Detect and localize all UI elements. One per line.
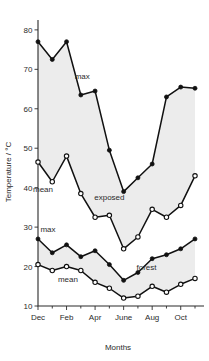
data-point-forest_max bbox=[122, 278, 126, 282]
data-point-forest_mean bbox=[36, 262, 40, 266]
y-tick-label: 10 bbox=[24, 302, 33, 311]
x-tick-label: June bbox=[115, 313, 133, 322]
data-point-exposed_max bbox=[79, 93, 83, 97]
x-tick-labels: DecFebAprJuneAugOct bbox=[31, 313, 188, 322]
data-point-exposed_max bbox=[93, 89, 97, 93]
data-point-exposed_max bbox=[65, 40, 69, 44]
x-axis-label: Months bbox=[105, 343, 131, 352]
data-point-forest_max bbox=[179, 247, 183, 251]
annotation-forest_mean: mean bbox=[58, 275, 78, 284]
data-point-forest_mean bbox=[179, 282, 183, 286]
data-point-forest_mean bbox=[150, 284, 154, 288]
data-point-exposed_max bbox=[50, 57, 54, 61]
data-point-forest_mean bbox=[64, 264, 68, 268]
data-point-exposed_max bbox=[179, 85, 183, 89]
data-point-forest_max bbox=[93, 249, 97, 253]
data-point-exposed_mean bbox=[136, 235, 140, 239]
x-tick-label: Aug bbox=[145, 313, 159, 322]
data-point-forest_mean bbox=[193, 276, 197, 280]
annotation-forest_band: forest bbox=[136, 263, 157, 272]
data-point-exposed_mean bbox=[121, 247, 125, 251]
y-tick-label: 60 bbox=[24, 105, 33, 114]
y-tick-label: 20 bbox=[24, 263, 33, 272]
data-point-forest_mean bbox=[121, 296, 125, 300]
data-point-forest_mean bbox=[164, 290, 168, 294]
data-point-exposed_max bbox=[193, 86, 197, 90]
annotation-exposed_max: max bbox=[75, 72, 90, 81]
data-point-exposed_mean bbox=[36, 160, 40, 164]
data-point-exposed_mean bbox=[50, 180, 54, 184]
y-axis-label: Temperature / °C bbox=[4, 142, 13, 203]
data-point-forest_max bbox=[193, 237, 197, 241]
data-point-exposed_max bbox=[136, 176, 140, 180]
x-tick-label: Feb bbox=[60, 313, 74, 322]
annotation-exposed_band: exposed bbox=[94, 193, 124, 202]
x-tick-label: Apr bbox=[89, 313, 102, 322]
annotation-forest_max: max bbox=[40, 225, 55, 234]
y-tick-label: 30 bbox=[24, 223, 33, 232]
annotation-exposed_mean: mean bbox=[33, 185, 53, 194]
data-point-forest_max bbox=[36, 237, 40, 241]
data-point-exposed_mean bbox=[150, 207, 154, 211]
data-point-forest_mean bbox=[107, 286, 111, 290]
data-point-forest_max bbox=[65, 243, 69, 247]
data-point-exposed_mean bbox=[164, 215, 168, 219]
x-tick-marks bbox=[38, 306, 195, 310]
data-point-exposed_mean bbox=[179, 203, 183, 207]
x-tick-label: Dec bbox=[31, 313, 45, 322]
y-tick-label: 80 bbox=[24, 26, 33, 35]
temperature-chart-figure: 1020304050607080 DecFebAprJuneAugOct max… bbox=[0, 0, 209, 361]
y-tick-label: 40 bbox=[24, 184, 33, 193]
data-point-exposed_mean bbox=[193, 174, 197, 178]
data-point-exposed_max bbox=[150, 162, 154, 166]
data-point-exposed_max bbox=[107, 148, 111, 152]
shaded-region bbox=[38, 42, 195, 249]
x-tick-label: Oct bbox=[175, 313, 188, 322]
y-tick-label: 70 bbox=[24, 65, 33, 74]
data-point-forest_max bbox=[107, 263, 111, 267]
chart-canvas: 1020304050607080 DecFebAprJuneAugOct max… bbox=[0, 0, 209, 361]
data-point-forest_max bbox=[79, 255, 83, 259]
data-point-forest_mean bbox=[136, 294, 140, 298]
data-point-forest_mean bbox=[50, 268, 54, 272]
data-point-exposed_mean bbox=[107, 213, 111, 217]
data-point-exposed_mean bbox=[64, 154, 68, 158]
y-tick-labels: 1020304050607080 bbox=[24, 26, 33, 311]
data-point-exposed_max bbox=[164, 95, 168, 99]
data-point-forest_mean bbox=[79, 268, 83, 272]
data-point-forest_max bbox=[50, 251, 54, 255]
data-point-exposed_max bbox=[36, 40, 40, 44]
data-point-exposed_mean bbox=[79, 191, 83, 195]
data-point-exposed_mean bbox=[93, 215, 97, 219]
data-point-forest_max bbox=[150, 257, 154, 261]
data-point-forest_mean bbox=[93, 280, 97, 284]
y-tick-label: 50 bbox=[24, 144, 33, 153]
data-point-forest_max bbox=[164, 253, 168, 257]
